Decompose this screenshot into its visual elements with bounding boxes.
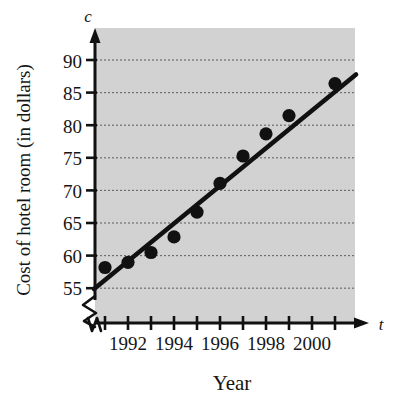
y-tick-label: 60 — [63, 246, 82, 267]
data-point — [236, 149, 249, 162]
y-tick-label: 80 — [63, 116, 82, 137]
x-tick-label: 1994 — [155, 333, 194, 354]
y-tick-label: 55 — [63, 278, 82, 299]
x-axis-title: Year — [213, 371, 252, 395]
x-axis-variable-label: t — [379, 315, 385, 334]
x-axis-tick-labels: 1992 1994 1996 1998 2000 — [109, 333, 331, 354]
x-tick-label: 1992 — [109, 333, 147, 354]
plot-area-background — [95, 28, 355, 323]
y-tick-label: 75 — [63, 148, 82, 169]
y-axis-variable-label: c — [84, 7, 92, 26]
data-point — [98, 261, 111, 274]
data-point — [282, 109, 295, 122]
data-point — [259, 127, 272, 140]
hotel-cost-scatter-chart: 55 60 65 70 75 80 85 90 1992 1994 — [0, 0, 396, 410]
y-tick-label: 70 — [63, 181, 82, 202]
x-tick-label: 1996 — [201, 333, 239, 354]
chart-figure: 55 60 65 70 75 80 85 90 1992 1994 — [0, 0, 396, 410]
y-axis-title: Cost of hotel room (in dollars) — [13, 64, 35, 296]
y-tick-label: 90 — [63, 51, 82, 72]
x-tick-label: 2000 — [293, 333, 331, 354]
x-tick-label: 1998 — [247, 333, 285, 354]
data-point — [167, 230, 180, 243]
data-point — [328, 77, 341, 90]
data-point — [213, 177, 226, 190]
data-point — [121, 256, 134, 269]
y-tick-label: 85 — [63, 83, 82, 104]
y-tick-label: 65 — [63, 213, 82, 234]
y-axis-tick-labels: 55 60 65 70 75 80 85 90 — [63, 51, 82, 300]
data-point — [144, 246, 157, 259]
data-point — [190, 206, 203, 219]
